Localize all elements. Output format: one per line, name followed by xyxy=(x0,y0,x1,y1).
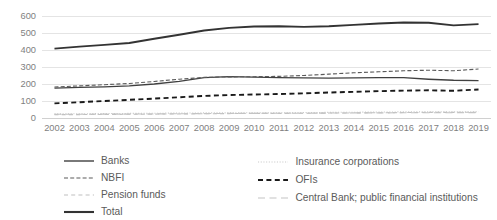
chart-canvas: 0100200300400500600200220032004200520062… xyxy=(0,0,497,140)
x-axis-tick-label: 2012 xyxy=(294,123,315,133)
series-line-banks xyxy=(54,77,478,88)
legend-item-total[interactable]: Total xyxy=(64,203,234,220)
y-axis-tick-label: 600 xyxy=(20,11,36,21)
legend-label-insurance-corporations: Insurance corporations xyxy=(295,156,399,168)
x-axis-tick-label: 2002 xyxy=(44,123,65,133)
legend-swatch-ofis xyxy=(258,175,288,185)
x-axis-tick-label: 2018 xyxy=(443,123,464,133)
legend-item-central-bank[interactable]: Central Bank; public financial instituti… xyxy=(258,189,497,207)
x-axis-tick-label: 2017 xyxy=(418,123,439,133)
legend-label-banks: Banks xyxy=(101,155,129,167)
x-axis-tick-label: 2004 xyxy=(94,123,115,133)
legend-swatch-nbfi xyxy=(64,173,94,183)
legend-column-right: Insurance corporations OFIs Central Bank… xyxy=(234,143,497,220)
legend-label-central-bank: Central Bank; public financial instituti… xyxy=(295,192,477,204)
legend-item-insurance-corporations[interactable]: Insurance corporations xyxy=(258,153,497,171)
y-axis-tick-label: 500 xyxy=(20,28,36,38)
y-axis-tick-label: 400 xyxy=(20,45,36,55)
x-axis-tick-label: 2013 xyxy=(319,123,340,133)
series-line-total xyxy=(54,22,478,48)
legend-swatch-total xyxy=(64,207,94,217)
legend-label-nbfi: NBFI xyxy=(101,172,124,184)
x-axis-tick-label: 2003 xyxy=(69,123,90,133)
x-axis-tick-label: 2011 xyxy=(269,123,289,133)
legend-swatch-central-bank xyxy=(258,193,288,203)
x-axis-tick-label: 2019 xyxy=(468,123,489,133)
legend-swatch-pension-funds xyxy=(64,190,94,200)
x-axis-tick-label: 2007 xyxy=(169,123,190,133)
plot-area: 0100200300400500600200220032004200520062… xyxy=(0,0,497,140)
x-axis-tick-label: 2005 xyxy=(119,123,140,133)
chart-legend: Banks NBFI Pension funds Total Insurance… xyxy=(0,143,497,220)
series-line-central-bank-public-financial-institutions xyxy=(54,113,478,115)
x-axis-tick-label: 2010 xyxy=(244,123,265,133)
y-axis-tick-label: 200 xyxy=(20,79,36,89)
line-chart: 0100200300400500600200220032004200520062… xyxy=(0,0,497,220)
legend-item-nbfi[interactable]: NBFI xyxy=(64,170,234,187)
legend-item-banks[interactable]: Banks xyxy=(64,153,234,170)
legend-label-total: Total xyxy=(101,206,123,218)
legend-swatch-insurance-corporations xyxy=(258,157,288,167)
x-axis-tick-label: 2016 xyxy=(393,123,414,133)
x-axis-tick-label: 2006 xyxy=(144,123,165,133)
legend-item-ofis[interactable]: OFIs xyxy=(258,171,497,189)
legend-column-left: Banks NBFI Pension funds Total xyxy=(0,143,234,220)
legend-label-ofis: OFIs xyxy=(295,174,317,186)
y-axis-tick-label: 300 xyxy=(20,62,36,72)
y-axis-tick-label: 100 xyxy=(20,96,36,106)
x-axis-tick-label: 2008 xyxy=(194,123,215,133)
y-axis-tick-label: 0 xyxy=(31,113,36,123)
legend-item-pension-funds[interactable]: Pension funds xyxy=(64,187,234,204)
x-axis-tick-label: 2014 xyxy=(343,123,364,133)
legend-swatch-banks xyxy=(64,156,94,166)
legend-label-pension-funds: Pension funds xyxy=(101,189,166,201)
x-axis-tick-label: 2009 xyxy=(219,123,240,133)
x-axis-tick-label: 2015 xyxy=(368,123,389,133)
